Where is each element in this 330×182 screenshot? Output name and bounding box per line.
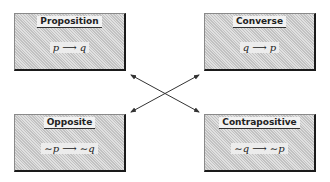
connection-arrows [0, 0, 330, 182]
